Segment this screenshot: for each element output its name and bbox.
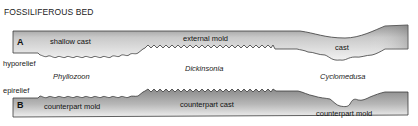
panel-a-label-cast: cast bbox=[335, 44, 349, 52]
hyporelief-label: hyporelief bbox=[3, 60, 36, 68]
panel-b-label-counterpart-mold-left: counterpart mold bbox=[44, 103, 100, 111]
panel-b-label-counterpart-mold-right: counterpart mold bbox=[316, 110, 372, 118]
panel-a-label-shallow-cast: shallow cast bbox=[50, 38, 91, 46]
epirelief-label: epirelief bbox=[3, 87, 29, 95]
taxon-cyclomedusa: Cyclomedusa bbox=[320, 73, 365, 81]
diagram-title: FOSSILIFEROUS BED bbox=[4, 8, 94, 17]
panel-b-letter: B bbox=[17, 101, 24, 110]
panel-a-label-external-mold: external mold bbox=[183, 35, 228, 43]
panel-a-letter: A bbox=[17, 38, 24, 47]
panel-b-label-counterpart-cast: counterpart cast bbox=[180, 101, 234, 109]
taxon-dickinsonia: Dickinsonia bbox=[185, 65, 223, 73]
taxon-phyllozoon: Phyllozoon bbox=[53, 73, 90, 81]
